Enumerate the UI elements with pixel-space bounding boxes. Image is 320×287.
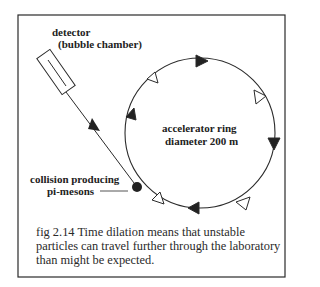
ring-label: accelerator ring [162,122,237,134]
track-arrow-icon [88,118,100,131]
collision-point [132,182,142,192]
figure-caption: fig 2.14 Time dilation means that unstab… [36,225,281,267]
detector-label: detector [52,26,91,38]
detector-icon [37,49,75,94]
ring-diameter-label: diameter 200 m [165,135,238,147]
collision-label: collision producing [30,173,120,185]
collision-sublabel: pi-mesons [47,185,95,197]
detector-sublabel: (bubble chamber) [58,38,142,51]
